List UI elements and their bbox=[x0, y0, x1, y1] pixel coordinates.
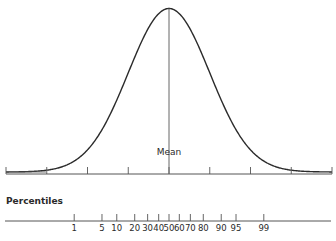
percentile-tick-label: 70 bbox=[185, 223, 196, 233]
percentile-tick-label: 5 bbox=[99, 223, 104, 233]
percentile-tick-label: 20 bbox=[129, 223, 140, 233]
normal-curve-diagram: Mean Percentiles 15102030405060708090959… bbox=[0, 0, 336, 241]
percentile-tick-label: 80 bbox=[198, 223, 209, 233]
percentile-tick-label: 10 bbox=[111, 223, 122, 233]
percentile-tick-label: 99 bbox=[258, 223, 269, 233]
percentile-tick-label: 60 bbox=[174, 223, 185, 233]
percentile-tick-label: 95 bbox=[231, 223, 242, 233]
percentile-tick-label: 40 bbox=[153, 223, 164, 233]
percentile-tick-label: 1 bbox=[71, 223, 76, 233]
percentile-ticks: 151020304050607080909599 bbox=[71, 214, 269, 233]
percentiles-label: Percentiles bbox=[6, 196, 63, 206]
percentile-tick-label: 50 bbox=[164, 223, 175, 233]
mean-label: Mean bbox=[157, 147, 182, 157]
percentile-tick-label: 30 bbox=[142, 223, 153, 233]
percentile-tick-label: 90 bbox=[216, 223, 227, 233]
